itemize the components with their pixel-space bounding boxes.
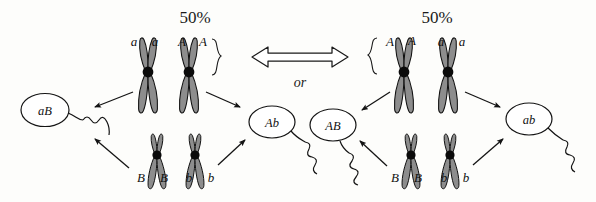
chromosome-a-a <box>139 38 158 113</box>
allele-label: b <box>186 170 193 185</box>
arrow-to-AB-from-bottom <box>360 141 387 166</box>
arrow-to-Ab-from-top <box>206 92 240 107</box>
allele-label: A <box>177 34 186 49</box>
arrow-to-ab-from-top <box>465 92 500 107</box>
panel-left: 50% a a A A B <box>21 8 317 189</box>
double-headed-arrow-icon <box>252 47 348 67</box>
chromosome-A-A <box>180 38 199 113</box>
allele-label: B <box>137 170 145 185</box>
allele-label: B <box>414 170 422 185</box>
chromosome-a-a <box>439 38 458 113</box>
panel-right: 50% A A a a B <box>310 8 575 189</box>
brace-right-icon <box>212 39 221 75</box>
allele-label: A <box>385 34 394 49</box>
gamete-label: aB <box>38 104 52 118</box>
gamete-Ab: Ab <box>249 106 317 174</box>
chromosome-pair-top-right: A A a a <box>385 33 466 113</box>
chromosome-pair-top-left: a a A A <box>131 34 207 113</box>
gamete-ab: ab <box>506 103 575 172</box>
gamete-aB: aB <box>21 94 109 136</box>
percent-label-left: 50% <box>179 8 210 27</box>
percent-label-right: 50% <box>421 8 452 27</box>
or-label: or <box>294 75 307 90</box>
allele-label: A <box>407 33 416 48</box>
allele-label: A <box>198 34 207 49</box>
connector-or: or <box>252 47 348 90</box>
arrow-to-ab-from-bottom <box>473 139 503 165</box>
chromosome-pair-bottom-left: B B b b <box>137 134 215 189</box>
allele-label: b <box>208 170 215 185</box>
allele-label: a <box>438 34 445 49</box>
brace-left-icon <box>368 38 377 74</box>
arrow-to-aB-from-top <box>95 92 133 107</box>
gamete-label: AB <box>324 119 341 133</box>
meiosis-independent-assortment-figure: 50% a a A A B <box>0 0 596 202</box>
arrow-to-AB-from-top <box>362 92 390 110</box>
allele-label: b <box>441 170 448 185</box>
allele-label: b <box>463 170 470 185</box>
gamete-AB: AB <box>310 109 358 185</box>
arrow-to-Ab-from-bottom <box>218 140 245 165</box>
arrow-to-aB-from-bottom <box>95 139 129 168</box>
chromosome-pair-bottom-right: B B b b <box>391 134 470 189</box>
gamete-label: ab <box>523 113 536 127</box>
chromosome-A-A <box>395 38 414 113</box>
allele-label: a <box>131 34 138 49</box>
allele-label: B <box>391 170 399 185</box>
gamete-label: Ab <box>264 116 279 130</box>
allele-label: B <box>160 170 168 185</box>
allele-label: a <box>152 34 159 49</box>
allele-label: a <box>459 34 466 49</box>
